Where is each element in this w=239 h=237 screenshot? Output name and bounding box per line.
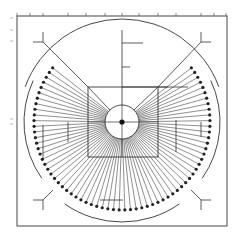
ring-dot [188, 177, 191, 180]
left-axis-marks [10, 18, 13, 124]
ring-dot [206, 102, 209, 105]
fan-test-pattern-diagram [0, 0, 239, 237]
diag-tl [43, 42, 88, 87]
ring-dot [38, 152, 41, 155]
ring-dot [33, 125, 36, 128]
ring-dot [208, 125, 211, 128]
ring-dot [101, 206, 104, 209]
ring-dot [43, 163, 46, 166]
diag-tr-in [134, 87, 158, 110]
ring-dot [49, 172, 52, 175]
hub-circle [105, 105, 139, 139]
ring-dot [84, 201, 87, 204]
center-dot [119, 119, 124, 124]
ring-dot [208, 130, 211, 133]
ring-dot [41, 158, 44, 161]
ring-dot [37, 91, 40, 94]
ring-dot [208, 113, 211, 116]
ring-dot [45, 76, 48, 79]
ring-dot [74, 195, 77, 198]
ring-dot [184, 181, 187, 184]
ring-dot [61, 185, 64, 188]
ring-dot [180, 185, 183, 188]
ring-dot [156, 201, 159, 204]
diag-tr [158, 42, 201, 87]
ring-dot [208, 119, 211, 122]
ring-dot [33, 130, 36, 133]
ring-dot [65, 189, 68, 192]
ring-dot [195, 168, 198, 171]
ring-dot [35, 142, 38, 145]
ring-dot [190, 66, 193, 69]
ring-dot [51, 66, 54, 69]
ring-dot [146, 205, 149, 208]
ring-dot [48, 71, 51, 74]
ring-dot [151, 203, 154, 206]
ring-dot [207, 108, 210, 111]
ring-dot [176, 189, 179, 192]
ring-dot [198, 163, 201, 166]
ring-dot [196, 76, 199, 79]
left-side-arc [24, 81, 42, 179]
right-side-arc [202, 81, 220, 179]
ring-dot [90, 203, 93, 206]
ring-dot [200, 158, 203, 161]
ring-dot [95, 205, 98, 208]
diag-br [191, 190, 201, 200]
ring-dot [112, 208, 115, 211]
ring-dot [33, 113, 36, 116]
ring-dot [46, 168, 49, 171]
ring-dot [204, 147, 207, 150]
ring-dot [206, 142, 209, 145]
ring-dot [39, 86, 42, 89]
ring-dot [207, 136, 210, 139]
ring-dot [191, 172, 194, 175]
ring-dot [36, 97, 39, 100]
ring-dot [123, 208, 126, 211]
ring-dot [34, 136, 37, 139]
ring-dot [201, 86, 204, 89]
ring-dot [37, 147, 40, 150]
ring-dot [161, 198, 164, 201]
ring-dot [171, 192, 174, 195]
ring-dot [53, 177, 56, 180]
ring-dot [203, 91, 206, 94]
ring-dot [32, 119, 35, 122]
ring-dot [135, 207, 138, 210]
ring-dot [193, 71, 196, 74]
ring-dot [106, 207, 109, 210]
ring-dot [199, 81, 202, 84]
ring-dot [205, 97, 208, 100]
ring-dot [79, 198, 82, 201]
ring-dot [129, 208, 132, 211]
ring-dot [202, 152, 205, 155]
ring-dot [42, 81, 45, 84]
ring-dot [57, 181, 60, 184]
ring-dot [140, 206, 143, 209]
diag-bl [43, 190, 53, 200]
ring-dot [34, 102, 37, 105]
bottom-arc [65, 204, 180, 222]
ring-dot [33, 108, 36, 111]
ring-dot [118, 208, 121, 211]
ring-dot [166, 195, 169, 198]
ring-dot [70, 192, 73, 195]
